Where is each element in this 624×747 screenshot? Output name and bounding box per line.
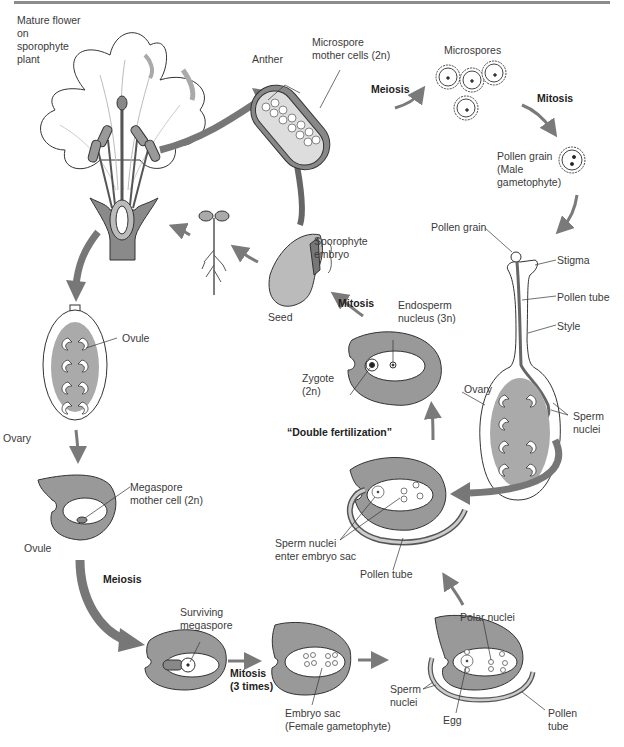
label-ovule-left: Ovule — [122, 332, 149, 345]
label-polar-nuclei: Polar nuclei — [460, 611, 515, 624]
label-mitosis-3-times: Mitosis (3 times) — [230, 667, 273, 693]
megaspore-ovule-icon — [38, 475, 130, 540]
label-meiosis-male: Meiosis — [371, 83, 410, 96]
seedling-icon — [199, 211, 229, 295]
label-sperm-nuclei-ovule: Sperm nuclei — [390, 683, 421, 709]
label-sporophyte-embryo: Sporophyte embryo — [314, 235, 368, 261]
label-mature-flower: Mature flower on sporophyte plant — [17, 14, 81, 66]
label-pollen-grain-male: Pollen grain (Male gametophyte) — [497, 150, 561, 189]
label-embryo-sac: Embryo sac (Female gametophyte) — [285, 707, 391, 733]
embryo-sac-ovule-icon — [272, 622, 351, 705]
label-ovule-megaspore: Ovule — [24, 542, 51, 555]
label-microspore-mother-cells: Microspore mother cells (2n) — [312, 36, 390, 62]
label-mitosis-male: Mitosis — [537, 92, 573, 105]
label-meiosis-female: Meiosis — [103, 573, 142, 586]
label-anther: Anther — [252, 53, 283, 66]
microspores-icon — [436, 61, 506, 120]
label-sperm-nuclei-enter: Sperm nuclei enter embryo sac — [275, 537, 356, 563]
label-pollen-tube-pistil: Pollen tube — [557, 291, 610, 304]
fertilization-ovule-icon — [423, 615, 545, 713]
label-egg: Egg — [443, 714, 462, 727]
label-zygote: Zygote (2n) — [302, 372, 334, 398]
label-endosperm-nucleus: Endosperm nucleus (3n) — [398, 299, 456, 325]
label-ovary-pistil: Ovary — [464, 383, 492, 396]
ovary-icon — [43, 305, 117, 420]
double-fertilization-ovule-icon — [340, 458, 465, 571]
label-seed: Seed — [268, 311, 293, 324]
label-style: Style — [557, 320, 580, 333]
label-pollen-grain: Pollen grain — [431, 221, 486, 234]
surviving-megaspore-ovule-icon — [145, 630, 226, 690]
label-ovary-left: Ovary — [3, 432, 31, 445]
label-pollen-tube-ovule: Pollen tube — [548, 707, 577, 733]
label-microspores: Microspores — [444, 44, 501, 57]
label-mitosis-seed: Mitosis — [338, 297, 374, 310]
zygote-ovule-icon — [348, 332, 441, 406]
pistil-icon — [462, 228, 568, 500]
label-stigma: Stigma — [557, 254, 590, 267]
pollen-grain-icon — [559, 147, 585, 173]
label-sperm-nuclei-pistil: Sperm nuclei — [573, 410, 604, 436]
label-megaspore-mother-cell: Megaspore mother cell (2n) — [130, 481, 203, 507]
label-surviving-megaspore: Surviving megaspore — [180, 606, 233, 632]
label-pollen-tube-double: Pollen tube — [360, 568, 413, 581]
label-double-fertilization: “Double fertilization” — [287, 426, 392, 439]
